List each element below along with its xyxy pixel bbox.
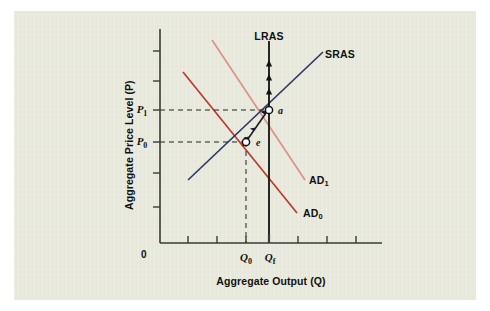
ad1-label-text: AD [309, 174, 325, 186]
y-tick-label-p1-text: P [137, 103, 144, 115]
y-tick-label-p1-sub: 1 [143, 109, 147, 118]
ad0-label: AD0 [303, 208, 323, 219]
x-tick-label-qf: Qf [265, 252, 276, 263]
y-tick-label-p0-text: P [137, 135, 144, 147]
x-tick-label-qf-sub: f [273, 257, 276, 266]
x-tick-label-q0: Q0 [240, 252, 252, 263]
y-tick-label-p0-sub: 0 [143, 141, 147, 150]
x-tick-label-q0-text: Q [240, 251, 248, 263]
x-tick-label-q0-sub: 0 [248, 257, 252, 266]
y-axis-title: Aggregate Price Level (P) [124, 80, 135, 210]
y-axis-ticks [153, 51, 160, 207]
aggregate-supply-demand-chart [0, 0, 490, 311]
lras-label: LRAS [254, 31, 283, 42]
ad0-label-text: AD [303, 207, 319, 219]
y-tick-label-p1: P1 [137, 104, 148, 115]
ad1-label-sub: 1 [325, 179, 329, 188]
ad1-label: AD1 [309, 175, 329, 186]
point-a-marker [265, 106, 272, 113]
sras-label: SRAS [325, 49, 355, 60]
y-tick-label-p0: P0 [137, 136, 148, 147]
point-a-label: a [278, 106, 283, 116]
lras-arrowheads [266, 60, 272, 94]
x-tick-label-qf-text: Q [265, 251, 273, 263]
point-e-label: e [256, 138, 260, 148]
x-axis-title: Aggregate Output (Q) [216, 276, 325, 287]
x-axis-ticks [188, 236, 356, 243]
origin-label: 0 [141, 250, 147, 260]
point-e-marker [242, 138, 249, 145]
ad0-label-sub: 0 [319, 212, 323, 221]
figure-page: LRAS SRAS AD1 AD0 P1 P0 Q0 Qf a e 0 Aggr… [0, 0, 490, 311]
